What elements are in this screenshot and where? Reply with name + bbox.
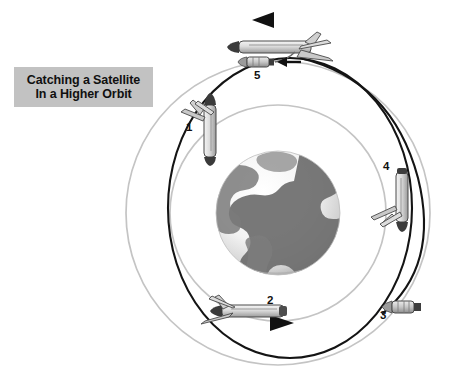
shuttle-4: [371, 168, 408, 232]
satellite-3: [382, 301, 421, 313]
diagram-canvas: Catching a Satellite In a Higher Orbit 1…: [0, 0, 454, 379]
diagram-title-line-2: In a Higher Orbit: [35, 87, 131, 101]
diagram-title-box: Catching a Satellite In a Higher Orbit: [14, 67, 153, 107]
satellite-captured: [238, 57, 274, 67]
step-label-5: 5: [254, 69, 260, 81]
direction-arrow-top: [252, 12, 274, 28]
step-label-2: 2: [267, 294, 273, 306]
step-label-4: 4: [383, 160, 389, 172]
step-label-3: 3: [380, 309, 386, 321]
orbital-diagram: [0, 0, 454, 379]
diagram-title-line-1: Catching a Satellite: [27, 73, 140, 87]
step-label-1: 1: [186, 121, 192, 133]
earth-globe: [207, 151, 366, 290]
